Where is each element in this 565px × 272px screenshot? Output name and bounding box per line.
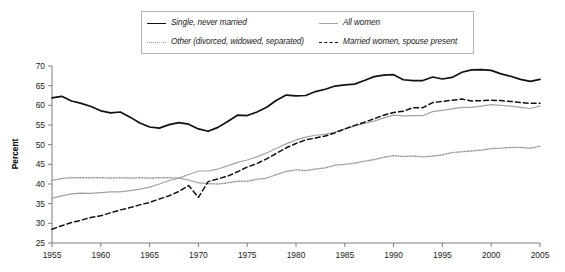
y-tick-label: 50	[36, 140, 46, 150]
y-axis: 25303540455055606570	[36, 61, 52, 248]
legend-label: Married women, spouse present	[343, 38, 457, 46]
y-tick-label: 65	[36, 81, 46, 91]
x-tick-label: 1995	[433, 250, 452, 260]
dashed-black-line-icon	[319, 38, 338, 46]
legend-item-married-women-spouse-present[interactable]: Married women, spouse present	[319, 34, 480, 50]
x-tick-label: 1985	[335, 250, 354, 260]
legend-item-all-women[interactable]: All women	[319, 15, 480, 31]
x-tick-label: 1975	[238, 250, 257, 260]
legend-label: Other (divorced, widowed, separated)	[171, 38, 304, 46]
y-tick-label: 25	[36, 238, 46, 248]
y-tick-label: 35	[36, 199, 46, 209]
y-tick-label: 45	[36, 159, 46, 169]
legend-item-other-divorced-widowed-separated[interactable]: Other (divorced, widowed, separated)	[147, 34, 319, 50]
dotted-gray-line-icon	[147, 38, 166, 46]
legend-label: Single, never married	[171, 19, 247, 27]
solid-black-line-icon	[147, 19, 166, 27]
legend-item-single-never-married[interactable]: Single, never married	[147, 15, 319, 31]
x-tick-label: 2005	[531, 250, 550, 260]
y-tick-label: 40	[36, 179, 46, 189]
x-tick-label: 1970	[189, 250, 208, 260]
solid-gray-line-icon	[319, 19, 338, 27]
series-line	[52, 146, 540, 184]
x-tick-label: 1990	[384, 250, 403, 260]
series-line	[52, 70, 540, 132]
chart-legend: Single, never married All women Other (d…	[141, 11, 474, 54]
x-tick-label: 1955	[43, 250, 62, 260]
x-tick-label: 1960	[91, 250, 110, 260]
x-tick-label: 1980	[287, 250, 306, 260]
y-axis-title: Percent	[10, 138, 20, 169]
y-tick-label: 70	[36, 61, 46, 71]
x-axis: 1955196019651970197519801985199019952000…	[43, 243, 550, 260]
y-tick-label: 60	[36, 100, 46, 110]
x-tick-label: 2000	[482, 250, 501, 260]
line-chart: 25303540455055606570 1955196019651970197…	[0, 0, 565, 272]
x-tick-label: 1965	[140, 250, 159, 260]
y-tick-label: 55	[36, 120, 46, 130]
data-series-group	[52, 70, 540, 230]
y-tick-label: 30	[36, 218, 46, 228]
series-line	[52, 99, 540, 229]
legend-label: All women	[343, 19, 380, 27]
